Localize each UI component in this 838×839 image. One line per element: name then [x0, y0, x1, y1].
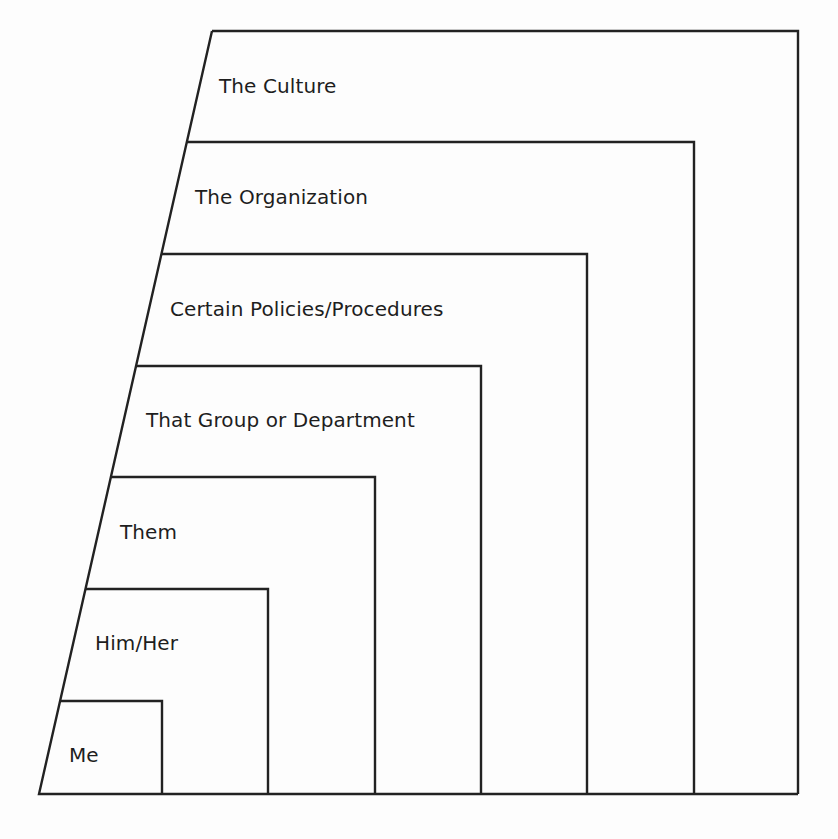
level-label-them: Them — [120, 520, 177, 544]
level-label-him-her: Him/Her — [95, 631, 178, 655]
level-label-group: That Group or Department — [146, 408, 415, 432]
level-boundary — [85, 589, 268, 794]
level-boundary — [187, 142, 694, 794]
level-label-me: Me — [69, 743, 99, 767]
nested-levels-diagram — [0, 0, 838, 839]
level-label-culture: The Culture — [219, 74, 336, 98]
level-label-policies: Certain Policies/Procedures — [170, 297, 444, 321]
level-label-organization: The Organization — [195, 185, 368, 209]
